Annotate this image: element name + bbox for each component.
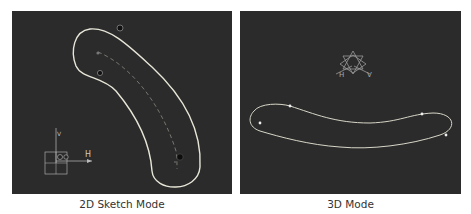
vertical-axis-label: V (367, 71, 372, 79)
sketch-canvas[interactable]: V H (12, 11, 232, 194)
sketch-profile-curve[interactable] (73, 29, 200, 187)
curve-point[interactable] (445, 134, 448, 137)
curve-point[interactable] (421, 113, 424, 116)
3d-profile-curve[interactable] (250, 104, 452, 148)
vertical-axis-label: V (57, 130, 62, 137)
control-point[interactable] (97, 70, 102, 75)
curve-point[interactable] (259, 122, 262, 125)
viewport-3d[interactable]: H V (240, 11, 461, 194)
curve-point[interactable] (289, 105, 292, 108)
horizontal-axis-label: H (339, 71, 344, 79)
control-point[interactable] (96, 51, 99, 54)
axis-gizmo-3d: H V (336, 51, 372, 79)
control-point[interactable] (177, 154, 183, 160)
caption-2d-sketch-mode: 2D Sketch Mode (12, 198, 232, 210)
horizontal-axis-label: H (85, 150, 91, 159)
sketch-centerline (98, 52, 177, 169)
caption-3d-mode: 3D Mode (240, 198, 461, 210)
3d-canvas[interactable]: H V (240, 11, 461, 194)
viewport-2d-sketch[interactable]: V H (12, 11, 232, 194)
axis-gizmo-2d: V H (45, 128, 92, 174)
control-point[interactable] (117, 25, 123, 31)
